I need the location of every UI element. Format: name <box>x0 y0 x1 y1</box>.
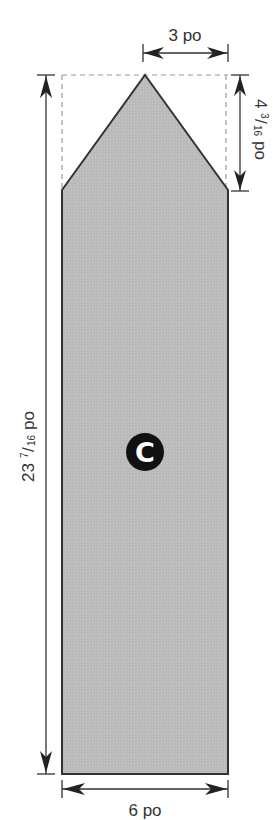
dimension-top-width <box>143 44 228 62</box>
svg-text:4: 4 <box>251 99 270 108</box>
svg-text:23: 23 <box>19 463 38 482</box>
svg-text:16: 16 <box>252 125 263 137</box>
svg-text:/: / <box>19 447 38 452</box>
svg-text:po: po <box>19 411 38 430</box>
bottom-width-label: 6 po <box>128 801 161 820</box>
svg-text:16: 16 <box>26 434 37 446</box>
pattern-piece-c <box>62 75 228 774</box>
pattern-diagram: C 3 po 4 3 / 16 po 23 7 / 16 po <box>0 0 278 820</box>
total-height-label: 23 7 / 16 po <box>19 411 38 482</box>
dimension-point-height <box>231 75 249 191</box>
piece-label-text: C <box>135 437 155 468</box>
top-width-label: 3 po <box>168 26 201 45</box>
svg-text:po: po <box>251 141 270 160</box>
dimension-total-height <box>37 75 55 774</box>
point-height-label: 4 3 / 16 po <box>251 99 270 160</box>
svg-text:/: / <box>251 119 270 124</box>
piece-label-badge: C <box>126 433 164 471</box>
